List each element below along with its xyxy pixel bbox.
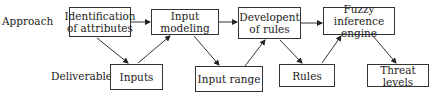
step-fuzzy-inference-engine: Fuzzy inferenceengine (323, 7, 395, 35)
step-line: modeling (160, 22, 209, 34)
step-line: engine (324, 27, 394, 39)
step-identification-of-attributes: Identificationof attributes (69, 7, 131, 37)
deliverable-threat-levels: Threat levels (367, 64, 429, 87)
row-label-approach: Approach (2, 15, 53, 27)
deliverable-inputs: Inputs (110, 64, 163, 90)
deliverable-rules: Rules (279, 64, 335, 87)
deliverable-input-range: Input range (195, 66, 263, 92)
step-input-modeling: Inputmodeling (151, 9, 219, 35)
row-label-deliverables: Deliverables (51, 70, 117, 82)
step-line: of attributes (64, 22, 135, 34)
step-line: Input (160, 10, 209, 22)
step-line: of rules (239, 23, 299, 35)
step-line: Identification (64, 10, 135, 22)
step-line: Fuzzy inference (324, 3, 394, 27)
step-line: Developent (239, 11, 299, 23)
step-development-of-rules: Developentof rules (238, 7, 301, 39)
